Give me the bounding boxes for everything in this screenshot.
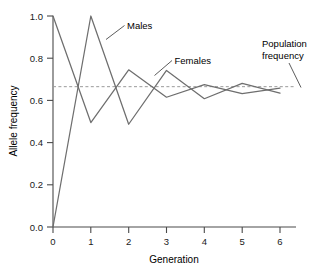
y-tick-label-5: 1.0 [30,11,43,22]
x-tick-label-0: 0 [50,236,55,247]
y-tick-label-1: 0.2 [30,179,43,190]
x-tick-label-5: 5 [240,236,245,247]
x-tick-label-2: 2 [126,236,131,247]
y-tick-label-3: 0.6 [30,95,43,106]
y-tick-label-0: 0.0 [30,222,43,233]
chart-svg: 0.0 0.2 0.4 0.6 0.8 1.0 0 1 2 3 4 5 6 Ge… [0,0,329,273]
x-tick-label-4: 4 [202,236,207,247]
x-tick-label-1: 1 [88,236,93,247]
y-axis-title: Allele frequency [8,85,19,156]
y-tick-label-4: 0.8 [30,53,43,64]
annotation-label-population-frequency-line1: Population [262,38,307,49]
annotation-label-males: Males [127,20,153,31]
allele-frequency-chart: 0.0 0.2 0.4 0.6 0.8 1.0 0 1 2 3 4 5 6 Ge… [0,0,329,273]
annotation-label-population-frequency-line2: frequency [262,50,304,61]
y-tick-label-2: 0.4 [30,137,43,148]
x-tick-label-3: 3 [164,236,169,247]
annotation-label-females: Females [175,55,212,66]
x-tick-label-6: 6 [277,236,282,247]
x-axis-title: Generation [149,254,198,265]
